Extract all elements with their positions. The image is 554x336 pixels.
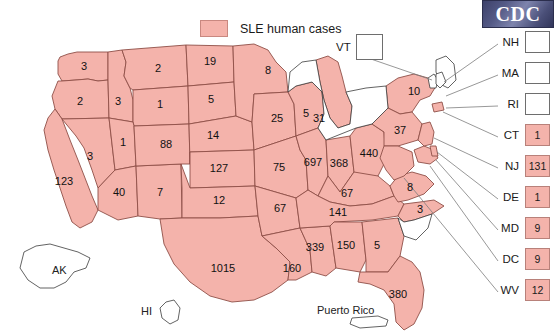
map-value-IL: 697 [304,156,322,168]
state-value-DE: 1 [525,186,550,208]
state-shape-PR [350,316,388,328]
cdc-logo-text: CDC [496,4,541,24]
map-value-NY: 10 [408,85,420,97]
state-shape-HI [160,300,180,324]
state-abbr-CT: CT [493,129,519,141]
map-value-NE: 14 [207,129,219,141]
map-value-AZ: 40 [113,186,125,198]
list-item[interactable]: NJ 131 [478,154,550,178]
map-value-NM: 7 [157,186,163,198]
map-value-CO: 88 [160,138,172,150]
map-value-WY: 1 [157,98,163,110]
us-choropleth-map: 3 2 123 3 3 2 1 1 40 7 88 19 5 14 127 12… [0,0,554,336]
leader-line-VT [368,58,432,80]
hawaii-label: HI [141,305,152,317]
map-value-MS: 339 [306,241,324,253]
list-item[interactable]: DE 1 [478,185,550,209]
map-value-VA: 8 [407,181,413,193]
list-item[interactable]: MA [478,61,550,85]
map-value-PA: 37 [394,124,406,136]
callout-label-VT: VT [336,41,351,53]
map-value-NV: 3 [87,150,93,162]
list-item[interactable]: MD 9 [478,216,550,240]
state-value-DC: 9 [525,248,550,270]
map-value-CA: 123 [55,175,73,187]
map-value-ND: 19 [204,55,216,67]
list-item[interactable]: WV 12 [478,278,550,302]
state-value-NH [525,31,550,53]
legend-swatch-sle [200,20,228,37]
map-value-MT: 2 [155,62,161,74]
alaska-label: AK [52,264,67,276]
list-item[interactable]: DC 9 [478,247,550,271]
map-legend: SLE human cases [200,20,341,37]
state-abbr-NH: NH [493,36,519,48]
map-value-MN: 8 [265,64,271,76]
map-value-TN: 141 [329,206,347,218]
map-value-WI: 5 [303,107,309,119]
map-value-WA: 3 [81,60,87,72]
map-value-OH: 440 [360,147,378,159]
map-value-ID: 3 [115,95,121,107]
state-value-NJ: 131 [525,155,550,177]
list-item[interactable]: CT 1 [478,123,550,147]
state-abbr-RI: RI [493,98,519,110]
state-value-CT: 1 [525,124,550,146]
state-abbr-WV: WV [493,284,519,296]
map-value-KS: 127 [210,162,228,174]
map-value-MO: 75 [273,161,285,173]
map-value-SD: 5 [208,93,214,105]
map-value-GA: 5 [374,239,380,251]
map-value-IN: 368 [330,157,348,169]
state-value-RI [525,93,550,115]
map-value-UT: 1 [120,136,126,148]
map-value-LA: 160 [283,262,301,274]
state-abbr-NJ: NJ [493,160,519,172]
puerto-rico-label: Puerto Rico [317,304,374,316]
cdc-logo[interactable]: CDC [482,0,554,28]
map-value-FL: 380 [389,288,407,300]
map-value-KY: 67 [341,187,353,199]
map-value-MI: 31 [313,112,325,124]
map-value-AL: 150 [337,239,355,251]
state-value-MD: 9 [525,217,550,239]
callout-box-VT [356,34,383,60]
state-abbr-MD: MD [493,222,519,234]
state-abbr-DC: DC [493,253,519,265]
map-value-IA: 25 [271,112,283,124]
map-value-NC: 3 [417,203,423,215]
state-value-WV: 12 [525,279,550,301]
state-shape-CT-shape [432,102,444,112]
screenshot-root: 3 2 123 3 3 2 1 1 40 7 88 19 5 14 127 12… [0,0,554,336]
callout-vermont[interactable]: VT [336,34,383,60]
legend-label-sle: SLE human cases [240,22,341,36]
state-value-MA [525,62,550,84]
map-value-OK: 12 [213,194,225,206]
map-value-OR: 2 [77,95,83,107]
state-abbr-MA: MA [493,67,519,79]
list-item[interactable]: RI [478,92,550,116]
map-value-AR: 67 [274,202,286,214]
map-value-TX: 1015 [211,262,235,274]
small-states-list: NH MA RI CT 1 NJ 131 DE 1 MD 9 DC [478,30,550,309]
list-item[interactable]: NH [478,30,550,54]
state-abbr-DE: DE [493,191,519,203]
